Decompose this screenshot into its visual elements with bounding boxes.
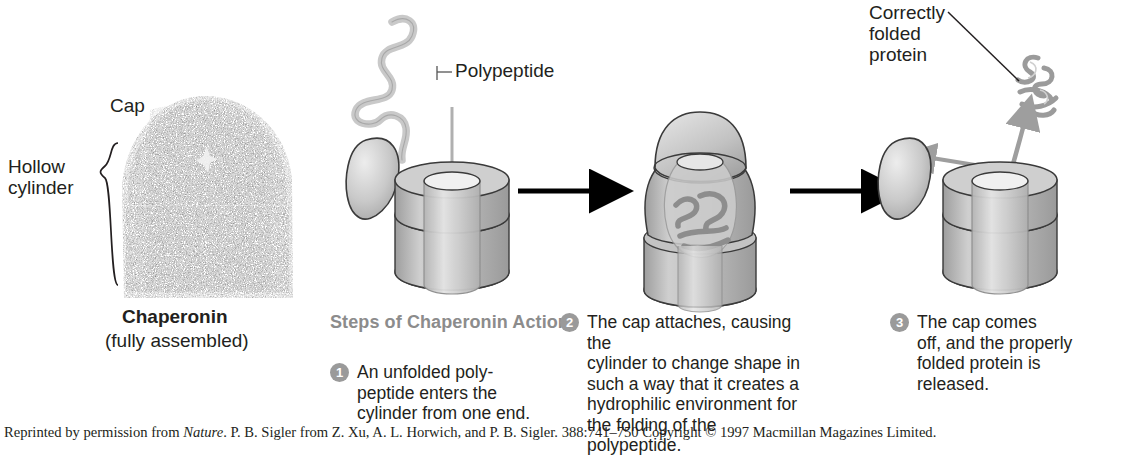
chaperonin-name-label: Chaperonin <box>122 306 228 328</box>
step2-illustration <box>644 112 756 312</box>
chaperonin-cap-icon <box>878 138 931 219</box>
step-item-3: 3 The cap comes off, and the properly fo… <box>890 312 1105 394</box>
cap-label: Cap <box>110 95 145 116</box>
source-credit-line: Reprinted by permission from Nature. P. … <box>4 424 1004 441</box>
hollow-cylinder-brace-icon <box>101 143 119 285</box>
step-number-badge-1: 1 <box>330 363 349 382</box>
chaperonin-cap-icon <box>655 112 746 182</box>
hollow-cylinder-label: Hollow cylinder <box>8 156 73 198</box>
folding-polypeptide-icon <box>676 194 728 249</box>
correctly-folded-protein-callout-label: Correctly folded protein <box>869 2 945 65</box>
chaperonin-cap-icon <box>346 138 399 219</box>
step-item-1: 1 An unfolded poly- peptide enters the c… <box>330 362 560 424</box>
polypeptide-chain-icon <box>355 19 414 160</box>
step-number-badge-2: 2 <box>560 313 579 332</box>
step-text-1: An unfolded poly- peptide enters the cyl… <box>357 362 560 424</box>
step-text-3: The cap comes off, and the properly fold… <box>917 312 1105 394</box>
folded-protein-icon <box>1018 57 1056 115</box>
chaperonin-structure-image <box>122 96 293 298</box>
steps-heading: Steps of Chaperonin Action: <box>330 312 575 332</box>
step-number-badge-3: 3 <box>890 313 909 332</box>
folded-protein-detail <box>1028 62 1047 104</box>
polypeptide-callout-label: Polypeptide <box>455 60 554 81</box>
chaperonin-subtitle-label: (fully assembled) <box>105 330 249 351</box>
